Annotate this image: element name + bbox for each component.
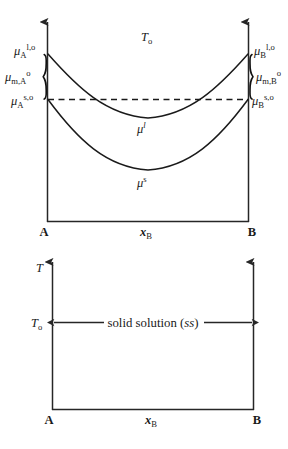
solid-curve-superscript: s: [143, 174, 147, 184]
mu-superscript: s,o: [24, 92, 34, 102]
phase-region-text-end: ): [194, 316, 198, 330]
mu-symbol: μ: [251, 94, 258, 108]
mu-superscript: s,o: [264, 92, 274, 102]
temperature-label-top-panel: To: [141, 30, 152, 46]
y-axis-label-bottom-panel: T: [36, 261, 44, 275]
mu-subscript: m,B: [262, 76, 277, 86]
composition-subscript: B: [151, 419, 157, 429]
mu-symbol: μ: [4, 70, 11, 84]
liquid-curve-symbol: μ: [136, 122, 143, 136]
figure-container: To μl μs μAl,o μm,Ao μAs,o μBl,o: [0, 0, 288, 449]
temperature-tick-label: To: [31, 316, 42, 332]
mu-subscript: m,A: [11, 76, 27, 86]
mu-B-liquid-standard-label: μBl,o: [253, 42, 275, 60]
mu-symbol: μ: [255, 70, 262, 84]
x-axis-label-bottom-panel: xB: [144, 413, 157, 429]
mu-symbol: μ: [253, 44, 260, 58]
liquid-curve-superscript: l: [143, 120, 146, 130]
right-endpoint-bottom-panel: B: [253, 413, 261, 427]
mu-A-liquid-standard-label: μAl,o: [13, 42, 35, 60]
chemical-potential-panel: To μl μs μAl,o μm,Ao μAs,o μBl,o: [4, 22, 281, 241]
x-axis-label-top-panel: xB: [139, 225, 152, 241]
mu-superscript: o: [26, 68, 30, 78]
phase-region-label: solid solution (ss): [107, 316, 198, 330]
liquid-curve-label: μl: [136, 120, 146, 136]
liquid-free-energy-curve: [48, 54, 248, 118]
mu-melt-A-label: μm,Ao: [4, 68, 31, 86]
solid-free-energy-curve: [48, 100, 248, 171]
solid-curve-symbol: μ: [136, 176, 143, 190]
mu-symbol: μ: [13, 44, 20, 58]
phase-diagram-panel: T To solid solution (ss) A B xB: [31, 261, 261, 429]
mu-superscript: o: [277, 68, 281, 78]
thermodynamic-diagram: To μl μs μAl,o μm,Ao μAs,o μBl,o: [0, 0, 288, 449]
left-endpoint-top-panel: A: [39, 225, 48, 239]
mu-symbol: μ: [10, 94, 17, 108]
left-endpoint-bottom-panel: A: [44, 413, 53, 427]
composition-subscript: B: [146, 231, 152, 241]
mu-melt-B-label: μm,Bo: [255, 68, 281, 86]
phase-region-text-start: solid solution (: [107, 316, 184, 330]
phase-region-abbrev: ss: [184, 316, 194, 330]
mu-B-solid-standard-label: μBs,o: [251, 92, 274, 110]
composition-symbol: x: [139, 225, 146, 239]
mu-A-solid-standard-label: μAs,o: [10, 92, 33, 110]
right-brace: [250, 55, 253, 100]
temperature-subscript: o: [148, 36, 152, 46]
mu-superscript: l,o: [266, 42, 275, 52]
composition-symbol: x: [144, 413, 151, 427]
solid-curve-label: μs: [136, 174, 147, 190]
left-brace: [43, 55, 46, 100]
right-endpoint-top-panel: B: [248, 225, 256, 239]
mu-superscript: l,o: [27, 42, 36, 52]
temperature-subscript: o: [38, 322, 42, 332]
